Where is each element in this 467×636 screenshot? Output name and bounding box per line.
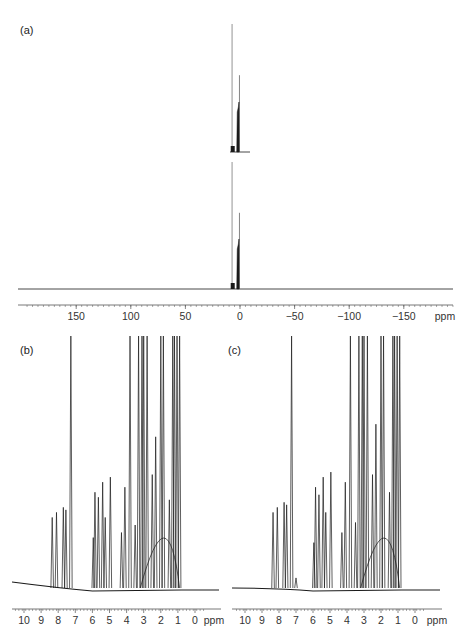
peak — [146, 336, 149, 588]
tick-label: 1 — [175, 614, 181, 626]
peak — [65, 510, 68, 588]
axis-unit-label: ppm — [204, 614, 225, 626]
peak — [94, 492, 97, 588]
tick-label: 100 — [122, 310, 140, 322]
peak — [341, 533, 344, 588]
peak — [290, 336, 293, 588]
tick-label: −100 — [337, 310, 361, 322]
peak — [97, 497, 100, 588]
peak — [124, 487, 127, 588]
tick-label: 10 — [239, 614, 251, 626]
peak-cluster — [237, 239, 239, 289]
baseline — [232, 588, 440, 591]
peak — [358, 336, 361, 588]
peak — [272, 512, 275, 588]
tick-label: 6 — [310, 614, 316, 626]
peak-cluster — [237, 102, 239, 152]
peak — [349, 336, 352, 588]
peak — [398, 336, 401, 588]
peak — [129, 336, 132, 588]
tick-label: 4 — [124, 614, 130, 626]
tick-label: 5 — [107, 614, 113, 626]
peak — [120, 533, 123, 588]
peak — [314, 487, 317, 588]
peak — [104, 517, 107, 588]
peak — [295, 578, 298, 588]
tick-label: 8 — [276, 614, 282, 626]
peak — [51, 517, 54, 588]
tick-label: 3 — [361, 614, 367, 626]
tick-label: 9 — [259, 614, 265, 626]
peak — [371, 475, 374, 588]
tick-label: 8 — [55, 614, 61, 626]
peak — [396, 336, 399, 588]
peak — [380, 336, 383, 588]
peak — [151, 475, 154, 588]
nmr-figure: 150100500−50−100−150ppm109876543210ppm10… — [0, 0, 467, 636]
peak — [344, 482, 347, 588]
tick-label: 2 — [378, 614, 384, 626]
peak — [388, 492, 391, 588]
peak — [375, 424, 378, 588]
peak — [162, 336, 165, 588]
peak — [354, 522, 357, 588]
tick-label: 4 — [344, 614, 350, 626]
peak — [70, 336, 73, 588]
tick-label: 150 — [67, 310, 85, 322]
panel-c: 109876543210ppm — [232, 336, 447, 626]
peak — [283, 502, 286, 588]
peak — [276, 507, 279, 588]
tick-label: 10 — [18, 614, 30, 626]
peak — [324, 512, 327, 588]
peak — [101, 482, 104, 588]
peak — [154, 437, 157, 588]
panel-a: 150100500−50−100−150ppm — [18, 24, 455, 322]
tick-label: 3 — [141, 614, 147, 626]
tick-label: 0 — [237, 310, 243, 322]
tick-label: 0 — [192, 614, 198, 626]
tick-label: 50 — [180, 310, 192, 322]
peak — [62, 507, 65, 588]
peak — [178, 336, 181, 588]
peak — [176, 336, 179, 588]
tick-label: 0 — [412, 614, 418, 626]
tick-label: −50 — [286, 310, 304, 322]
peak — [382, 336, 385, 588]
peak — [322, 477, 325, 588]
peak — [109, 477, 112, 588]
tick-label: 6 — [89, 614, 95, 626]
panel-b: 109876543210ppm — [12, 336, 224, 626]
baseline — [12, 582, 219, 591]
peak — [55, 512, 58, 588]
peak — [137, 336, 140, 588]
tick-label: 2 — [158, 614, 164, 626]
peak — [173, 336, 176, 588]
peak — [285, 505, 288, 588]
peak — [160, 336, 163, 588]
tick-label: 1 — [395, 614, 401, 626]
axis-unit-label: ppm — [427, 614, 448, 626]
tick-label: 5 — [327, 614, 333, 626]
peak — [318, 495, 321, 588]
peak — [134, 525, 137, 588]
peak — [142, 336, 145, 588]
tick-label: 7 — [72, 614, 78, 626]
tick-label: 9 — [38, 614, 44, 626]
peak — [363, 336, 366, 588]
tick-label: −150 — [392, 310, 416, 322]
peak — [366, 336, 369, 588]
peak — [393, 336, 396, 588]
peak — [330, 472, 333, 588]
axis-unit-label: ppm — [435, 310, 456, 322]
tick-label: 7 — [293, 614, 299, 626]
